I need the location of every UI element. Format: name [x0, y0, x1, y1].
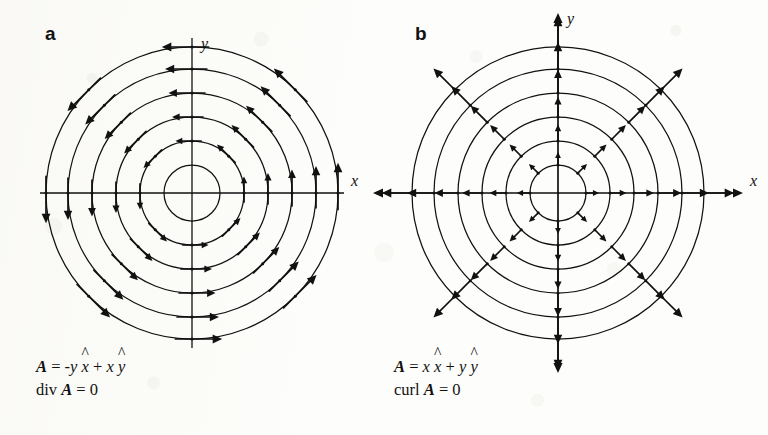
field-arrow-r5-a2 — [274, 68, 307, 101]
field-arrow-r2-a3 — [172, 113, 203, 120]
field-arrow-r3-a7 — [554, 269, 561, 289]
field-arrow-r2-a7 — [555, 245, 561, 262]
field-arrow-foot-r3-a3 — [191, 92, 194, 95]
field-arrow-r6-a1 — [704, 189, 734, 198]
field-arrow-foot-r5-a4 — [87, 88, 90, 91]
field-arrow-r4-a6-shaft — [94, 270, 119, 295]
field-arrow-r3-a4 — [105, 113, 131, 139]
field-arrow-foot-r4-a2 — [627, 121, 630, 124]
field-arrow-r3-a4-shaft — [109, 113, 131, 135]
field-arrow-foot-r6-a5 — [411, 192, 414, 195]
figure-root: a y x A = -y ^x + x ^y div A = 0 b y — [0, 0, 768, 435]
caption-b-line1: A = x ^x + y ^y — [394, 355, 478, 378]
field-arrow-r5-a5 — [42, 176, 51, 223]
field-arrow-foot-r4-a2 — [278, 104, 281, 107]
field-arrow-foot-r3-a8 — [261, 262, 264, 265]
field-arrow-foot-r4-a3 — [557, 92, 560, 95]
field-arrow-r1-a5 — [517, 190, 530, 196]
field-arrow-r4-a7 — [554, 293, 562, 317]
caption-b: A = x ^x + y ^y curl A = 0 — [394, 355, 478, 402]
field-arrow-foot-r5-a3 — [557, 68, 560, 71]
axis-label-y-b: y — [567, 11, 574, 27]
field-arrow-foot-r3-a7 — [557, 268, 560, 271]
field-arrow-foot-r3-a2 — [610, 138, 613, 141]
field-arrow-foot-r4-a1 — [657, 192, 660, 195]
field-arrow-r4-a2 — [629, 106, 646, 123]
field-arrow-foot-r5-a8 — [644, 279, 647, 282]
field-arrow-foot-r3-a4 — [503, 138, 506, 141]
field-arrow-r2-a7-head — [555, 255, 561, 262]
field-arrow-foot-r6-a6 — [453, 295, 456, 298]
field-arrow-r2-a4 — [510, 145, 522, 157]
field-arrow-foot-r2-a5 — [115, 192, 118, 195]
caption-b-operator-target: A — [424, 380, 435, 399]
field-arrow-foot-r1-a5 — [139, 192, 142, 195]
field-arrow-r1-a7 — [555, 221, 561, 234]
field-arrow-r6-a8-shaft — [661, 296, 678, 313]
field-arrow-r1-a1-head — [593, 190, 599, 196]
caption-b-plus: + — [445, 357, 454, 376]
field-arrow-r6-a1-head — [725, 189, 735, 198]
field-arrow-foot-r1-a4 — [154, 155, 157, 158]
caption-a-equals: = — [51, 357, 60, 376]
field-arrow-r4-a8 — [629, 264, 646, 281]
caption-a: A = -y ^x + x ^y div A = 0 — [36, 355, 125, 402]
field-arrow-r3-a5 — [88, 180, 96, 216]
field-arrow-foot-r5-a5 — [433, 192, 436, 195]
field-arrow-foot-r2-a4 — [137, 138, 140, 141]
field-arrow-foot-r5-a7 — [191, 338, 194, 341]
field-arrow-r6-a2-shaft — [661, 73, 678, 90]
field-arrow-r2-a5 — [489, 190, 506, 196]
field-arrow-foot-r1-a3 — [557, 164, 560, 167]
field-arrow-r2-a2 — [232, 125, 254, 147]
field-arrow-foot-r1-a7 — [557, 220, 560, 223]
caption-a-term1-scalar: y — [70, 357, 77, 376]
field-arrow-r2-a8-shaft — [238, 236, 256, 254]
field-arrow-r3-a1 — [288, 170, 296, 206]
field-arrow-r3-a7 — [179, 289, 215, 297]
field-arrow-r5-a4 — [67, 78, 100, 111]
field-arrow-r1-a3 — [175, 138, 201, 144]
field-arrow-foot-r5-a5 — [45, 192, 48, 195]
caption-a-line1: A = -y ^x + x ^y — [36, 355, 125, 378]
field-arrow-r1-a1 — [586, 190, 599, 196]
axis-x-positive-arrow-head — [733, 188, 743, 197]
field-arrow-foot-r2-a6 — [520, 228, 523, 231]
caption-a-term2-hat-icon: ^ — [118, 345, 125, 361]
caption-a-term1-unit-vector: ^x — [82, 355, 89, 378]
axis-label-x-b: x — [750, 173, 757, 189]
field-arrow-r1-a3-head — [555, 152, 561, 158]
field-arrow-r3-a3 — [554, 97, 561, 117]
field-arrow-foot-r2-a5 — [505, 192, 508, 195]
field-arrow-r2-a6 — [510, 230, 522, 242]
field-arrow-r1-a6 — [529, 213, 538, 222]
field-arrow-foot-r5-a2 — [294, 88, 297, 91]
field-arrow-foot-r6-a4 — [453, 88, 456, 91]
field-arrow-r6-a6 — [433, 296, 454, 317]
caption-b-line2: curl A = 0 — [394, 378, 478, 401]
field-arrow-r1-a7 — [183, 242, 209, 248]
field-arrow-r1-a1 — [241, 176, 247, 202]
field-arrow-foot-r5-a1 — [681, 192, 684, 195]
field-arrow-r3-a8-shaft — [254, 251, 276, 273]
caption-b-term1-hat-icon: ^ — [434, 345, 441, 361]
field-arrow-r4-a1 — [312, 166, 320, 208]
field-arrow-r3-a3 — [169, 89, 205, 97]
field-arrow-foot-r3-a5 — [481, 192, 484, 195]
field-arrow-r6-a2 — [661, 68, 682, 89]
field-arrow-foot-r3-a2 — [261, 121, 264, 124]
field-arrow-r5-a7 — [175, 335, 222, 344]
panel-divider — [383, 10, 384, 425]
field-arrow-foot-r2-a2 — [244, 138, 247, 141]
field-arrow-foot-r5-a6 — [87, 295, 90, 298]
field-arrow-r1-a7-head — [555, 228, 561, 234]
field-arrow-r6-a6-shaft — [438, 296, 455, 313]
field-arrow-r2-a6-shaft — [130, 239, 148, 257]
field-arrow-r6-a4-shaft — [438, 73, 455, 90]
field-arrow-foot-r5-a7 — [557, 316, 560, 319]
axis-label-y-a: y — [201, 36, 208, 52]
field-arrow-r2-a8 — [238, 233, 260, 255]
field-arrow-r4-a7-head — [554, 308, 562, 316]
caption-a-vector-symbol: A — [36, 357, 47, 376]
caption-b-term1-unit-vector: ^x — [434, 355, 441, 378]
